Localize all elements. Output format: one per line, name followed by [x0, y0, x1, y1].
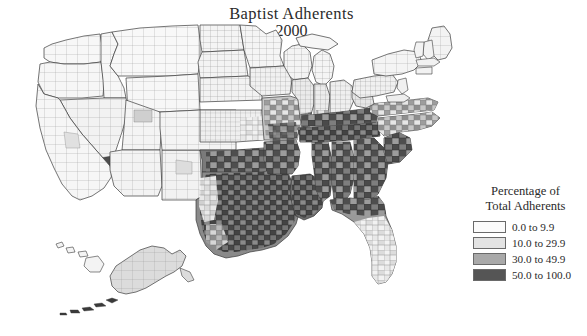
- legend-swatch-fill-3: [474, 270, 505, 280]
- map-region-northeast: [352, 26, 452, 102]
- state-new-jersey: [397, 78, 408, 94]
- alaska-panhandle: [180, 268, 194, 282]
- map-inset-hawaii: [56, 242, 104, 272]
- legend-title-line2: Total Adherents: [464, 199, 587, 214]
- choropleth-map: [0, 0, 470, 336]
- legend-swatch: [473, 269, 506, 281]
- county-light-nm: [176, 160, 192, 174]
- county-mesh-mn: [240, 25, 284, 68]
- county-mesh-ny: [372, 50, 422, 76]
- legend-title-line1: Percentage of: [491, 184, 560, 198]
- map-legend: Percentage of Total Adherents 0.0 to 9.9…: [464, 184, 587, 282]
- legend-label: 0.0 to 9.9: [512, 221, 554, 233]
- state-hawaii-kauai: [56, 242, 64, 248]
- county-dark-mo-south: [268, 122, 298, 142]
- legend-item: 50.0 to 100.0: [464, 268, 587, 282]
- county-mesh-ak: [110, 246, 186, 294]
- legend-swatch-fill-2: [474, 254, 505, 264]
- state-connecticut-rhode-island: [416, 67, 432, 74]
- county-cluster-ks: [240, 116, 264, 140]
- county-cluster-ga: [354, 138, 388, 202]
- state-hawaii-maui: [78, 251, 88, 257]
- legend-label: 30.0 to 49.9: [512, 253, 565, 265]
- county-cluster-fl-south: [354, 216, 396, 284]
- state-hawaii-oahu: [66, 247, 75, 253]
- county-mesh-or: [38, 62, 104, 98]
- map-figure: Baptist Adherents 2000: [0, 0, 587, 336]
- legend-swatch-fill-0: [474, 222, 505, 232]
- county-mid-ut: [134, 110, 152, 122]
- county-cluster-ar: [264, 140, 300, 174]
- county-cluster-al: [332, 142, 354, 202]
- alaska-aleutian-islands: [60, 298, 118, 315]
- legend-item: 30.0 to 49.9: [464, 252, 587, 266]
- legend-swatch: [473, 221, 506, 233]
- us-counties-map-svg: [0, 0, 470, 336]
- legend-items: 0.0 to 9.9 10.0 to 29.9 30.0 to 49.9 50.…: [464, 220, 587, 282]
- legend-item: 0.0 to 9.9: [464, 220, 587, 234]
- legend-swatch: [473, 237, 506, 249]
- legend-swatch-fill-1: [474, 238, 505, 248]
- county-mesh-wa: [44, 34, 103, 64]
- county-mesh-nm: [162, 150, 202, 200]
- county-mesh-mt: [110, 25, 200, 76]
- legend-title: Percentage of Total Adherents: [464, 184, 587, 214]
- county-light-ca: [64, 132, 80, 148]
- county-mesh-sd: [198, 50, 248, 78]
- county-mesh-az: [110, 150, 162, 196]
- legend-swatch: [473, 253, 506, 265]
- county-cluster-nc: [378, 112, 440, 136]
- state-new-hampshire: [423, 40, 434, 60]
- legend-item: 10.0 to 29.9: [464, 236, 587, 250]
- state-vermont: [414, 42, 424, 58]
- legend-label: 10.0 to 29.9: [512, 237, 565, 249]
- county-mesh-pa: [352, 74, 398, 98]
- legend-label: 50.0 to 100.0: [512, 269, 571, 281]
- county-mesh-nd: [200, 25, 244, 52]
- state-hawaii-big-island: [84, 256, 104, 272]
